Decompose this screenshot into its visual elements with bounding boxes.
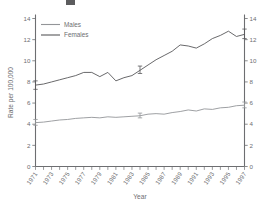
- series-line-females: [36, 31, 245, 85]
- chart-figure: 0022446688101012121414Rate per 100,00019…: [0, 0, 276, 205]
- x-tick-label: 1991: [186, 170, 200, 186]
- x-tick-label: 1971: [25, 170, 39, 186]
- y-tick-label-left: 4: [27, 120, 31, 127]
- y-tick-label-right: 10: [250, 57, 257, 64]
- x-tick-label: 1985: [137, 170, 151, 186]
- y-tick-label-right: 6: [250, 99, 254, 106]
- x-tick-label: 1973: [41, 170, 55, 186]
- y-axis-title: Rate per 100,000: [7, 67, 15, 118]
- y-tick-label-left: 2: [27, 142, 31, 149]
- y-tick-label-left: 10: [24, 57, 31, 64]
- y-tick-label-left: 0: [27, 163, 31, 170]
- y-tick-label-right: 2: [250, 142, 254, 149]
- y-tick-label-left: 6: [27, 99, 31, 106]
- y-tick-label-right: 4: [250, 120, 254, 127]
- x-tick-label: 1977: [73, 170, 87, 186]
- y-tick-label-right: 14: [250, 15, 257, 22]
- x-tick-label: 1981: [105, 170, 119, 186]
- legend-label-females: Females: [64, 31, 89, 38]
- x-tick-label: 1975: [57, 170, 71, 186]
- y-tick-label-left: 12: [24, 36, 31, 43]
- x-tick-label: 1983: [121, 170, 135, 186]
- line-chart: 0022446688101012121414Rate per 100,00019…: [0, 0, 276, 205]
- x-tick-label: 1993: [202, 170, 216, 186]
- x-tick-label: 1995: [218, 170, 232, 186]
- legend-label-males: Males: [64, 21, 81, 28]
- x-axis-title: Year: [133, 193, 147, 200]
- y-tick-label-right: 8: [250, 78, 254, 85]
- y-tick-label-right: 0: [250, 163, 254, 170]
- x-tick-label: 1987: [154, 170, 168, 186]
- x-tick-label: 1979: [89, 170, 103, 186]
- y-tick-label-right: 12: [250, 36, 257, 43]
- x-tick-label: 1997: [234, 170, 248, 186]
- x-tick-label: 1989: [170, 170, 184, 186]
- y-tick-label-left: 14: [24, 15, 31, 22]
- y-tick-label-left: 8: [27, 78, 31, 85]
